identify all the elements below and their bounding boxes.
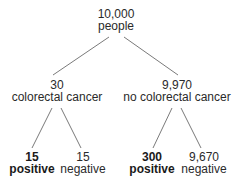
no-cancer-positive-label: positive: [129, 163, 174, 175]
edge-cancer-to-negative: [61, 108, 81, 148]
cancer-positive-node: 15 positive: [9, 151, 54, 175]
cancer-positive-label: positive: [9, 163, 54, 175]
cancer-negative-node: 15 negative: [60, 151, 105, 175]
edge-root-to-no-cancer: [124, 37, 178, 75]
cancer-label: colorectal cancer: [12, 91, 103, 103]
edge-no-cancer-to-positive: [153, 108, 172, 148]
edge-no-cancer-to-negative: [181, 108, 201, 148]
no-cancer-negative-label: negative: [181, 163, 226, 175]
root-node: 10,000 people: [98, 8, 135, 32]
edge-root-to-cancer: [53, 37, 109, 75]
cancer-negative-label: negative: [60, 163, 105, 175]
no-cancer-node: 9,970 no colorectal cancer: [123, 79, 230, 103]
no-cancer-positive-node: 300 positive: [129, 151, 174, 175]
edge-cancer-to-positive: [32, 108, 52, 148]
root-label: people: [98, 20, 135, 32]
cancer-node: 30 colorectal cancer: [12, 79, 103, 103]
no-cancer-label: no colorectal cancer: [123, 91, 230, 103]
no-cancer-negative-node: 9,670 negative: [181, 151, 226, 175]
